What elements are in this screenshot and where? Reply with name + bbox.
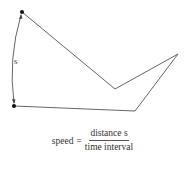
formula-equals: = bbox=[77, 136, 82, 146]
formula-fraction: distance s time interval bbox=[85, 128, 133, 153]
end-point-dot bbox=[12, 104, 16, 108]
start-point-dot bbox=[20, 10, 24, 14]
arrowhead-top-icon bbox=[19, 14, 23, 19]
formula-denominator: time interval bbox=[85, 141, 133, 153]
formula-numerator: distance s bbox=[89, 128, 128, 141]
arc-label: s bbox=[14, 56, 18, 66]
speed-formula: speed = distance s time interval bbox=[0, 128, 185, 153]
formula-lhs: speed bbox=[52, 136, 74, 146]
path-diagram bbox=[0, 0, 185, 125]
travel-path bbox=[14, 12, 178, 111]
arrowhead-bottom-icon bbox=[12, 99, 16, 104]
